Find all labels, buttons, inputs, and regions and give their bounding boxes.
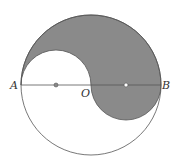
right-center-dot bbox=[124, 83, 128, 87]
label-o: O bbox=[81, 87, 90, 100]
left-center-dot bbox=[54, 83, 58, 87]
yin-yang-diagram: A O B bbox=[0, 0, 174, 168]
label-b: B bbox=[161, 79, 170, 92]
label-a: A bbox=[9, 79, 18, 92]
shaded-region bbox=[21, 15, 161, 120]
